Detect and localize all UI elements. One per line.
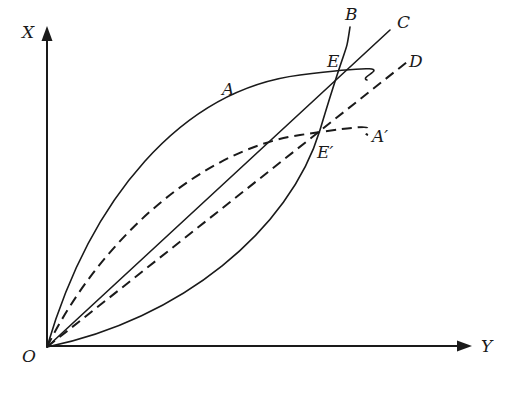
curve-label-b: B: [344, 4, 358, 24]
origin-label-o: O: [22, 346, 36, 366]
curve-D-ray: [47, 62, 407, 347]
curve-C-ray: [47, 30, 390, 347]
arrow-right-icon: [457, 341, 472, 352]
curve-label-a: A: [220, 79, 234, 99]
axes: [42, 26, 473, 352]
arrow-up-icon: [42, 26, 53, 41]
curve-label-c: C: [397, 12, 410, 32]
diagram-canvas: X Y O A A′ B C D E E′: [0, 0, 509, 393]
curve-label-d: D: [408, 51, 423, 71]
curve-label-a-prime: A′: [370, 126, 388, 146]
axis-label-x: X: [20, 22, 35, 42]
curve-A: [47, 69, 374, 347]
point-label-e: E: [326, 51, 340, 71]
axis-label-y: Y: [481, 336, 494, 356]
point-label-e-prime: E′: [316, 142, 333, 162]
